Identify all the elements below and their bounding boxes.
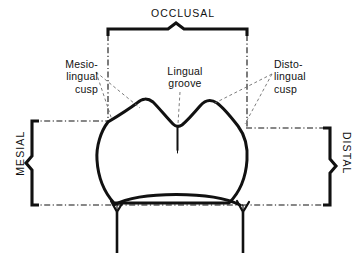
dental-diagram: OCCLUSAL Mesio- lingual cusp Lingual gro… (0, 0, 364, 259)
label-occlusal: OCCLUSAL (140, 7, 226, 19)
mesial-brace (26, 121, 39, 205)
distal-brace (323, 128, 336, 205)
tooth-crown-outline (97, 99, 247, 203)
label-distolingual-cusp: Disto- lingual cusp (274, 58, 354, 95)
label-distal: DISTAL (341, 117, 353, 189)
leader-line-mesiolingual-cusp (96, 72, 140, 108)
leader-line-lingual-groove (178, 92, 180, 124)
leader-line-mesiolingual-cusp-2 (96, 72, 112, 120)
occlusal-brace (108, 23, 247, 36)
leader-line-distolingual-cusp-2 (245, 74, 272, 124)
label-mesiolingual-cusp: Mesio- lingual cusp (20, 58, 98, 95)
leader-line-distolingual-cusp (213, 74, 272, 104)
label-lingual-groove: Lingual groove (150, 65, 220, 90)
label-mesial: MESIAL (14, 117, 26, 189)
tooth-illustration (0, 0, 364, 259)
